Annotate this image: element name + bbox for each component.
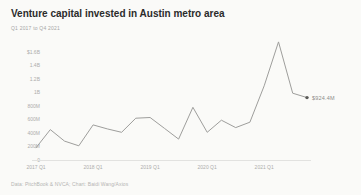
last-point-value-label: $924.4M [312, 95, 335, 101]
chart-card: Venture capital invested in Austin metro… [0, 0, 361, 195]
x-axis-tick-label: 2019 Q1 [141, 164, 160, 170]
x-axis-tick-label: 2021 Q1 [255, 164, 274, 170]
y-axis-tick-label: 1B [34, 89, 41, 95]
y-axis-tick-label: 1.4B [30, 62, 41, 68]
x-axis-tick-label: 2018 Q1 [83, 164, 102, 170]
chart-source-credit: Data: PitchBook & NVCA; Chart: Baidi Wan… [11, 181, 128, 187]
y-axis-tick-label: 800M [27, 103, 40, 109]
x-axis-tick-label: 2017 Q1 [26, 164, 45, 170]
y-axis-tick-label: 600M [27, 116, 40, 122]
x-axis-tick-label: 2020 Q1 [198, 164, 217, 170]
y-axis-tick-label: 200M [27, 143, 40, 149]
vc-invested-line-series [36, 42, 307, 148]
y-axis-tick-label: 1.2B [30, 76, 41, 82]
y-axis-tick-label: 400M [27, 130, 40, 136]
last-point-marker [305, 96, 308, 99]
line-chart-plot-area: $1.6B1.4B1.2B1B800M600M400M200M02017 Q12… [0, 0, 361, 195]
y-axis-tick-label: 0 [37, 157, 40, 163]
y-axis-tick-label: $1.6B [27, 49, 41, 55]
